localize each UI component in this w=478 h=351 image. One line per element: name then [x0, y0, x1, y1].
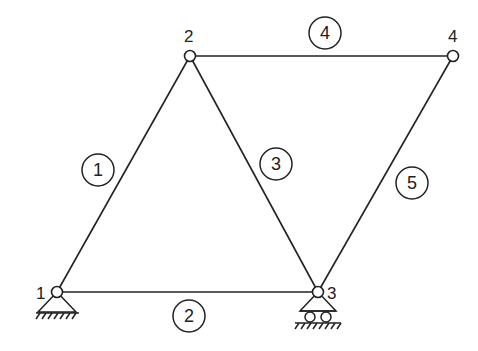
node-4-joint	[448, 51, 459, 62]
node-3-label: 3	[327, 284, 336, 303]
node-3-joint	[313, 287, 324, 298]
node-2-joint	[185, 51, 196, 62]
node-2-label: 2	[184, 27, 193, 46]
member-2-label: 2	[184, 306, 194, 326]
member-5-line	[318, 56, 453, 292]
node-1-joint	[52, 287, 63, 298]
member-5-label: 5	[407, 173, 417, 193]
node-1-label: 1	[36, 284, 45, 303]
member-1-label: 1	[93, 160, 103, 180]
truss-diagram: 1 2 3 4 1 2 3 4 5	[0, 0, 478, 351]
member-3-line	[190, 56, 318, 292]
member-3-label: 3	[271, 154, 281, 174]
node-4-label: 4	[448, 27, 457, 46]
member-4-label: 4	[320, 23, 330, 43]
member-1-line	[57, 56, 190, 292]
